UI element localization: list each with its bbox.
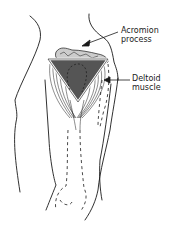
deltoid-diagram: Acromion process Deltoid muscle (0, 0, 170, 228)
label-acromion-line1: Acromion (121, 26, 159, 35)
label-acromion-process: Acromion process (121, 26, 159, 44)
arm-inner-left (45, 80, 56, 210)
label-deltoid-line2: muscle (132, 83, 161, 92)
label-acromion-line2: process (121, 35, 159, 44)
torso-outline (15, 16, 41, 192)
label-deltoid-line1: Deltoid (132, 74, 161, 83)
arm-inner-right (100, 84, 111, 200)
label-deltoid-muscle: Deltoid muscle (132, 74, 161, 92)
